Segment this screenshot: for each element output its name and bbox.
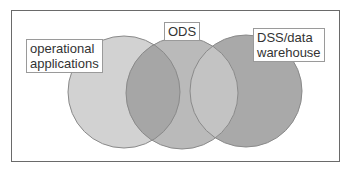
label-operational-applications: operational applications (26, 39, 103, 73)
label-line: applications (30, 56, 99, 71)
label-dss-data-warehouse: DSS/data warehouse (253, 28, 325, 62)
label-ods: ODS (164, 22, 200, 41)
label-line: DSS/data (257, 30, 321, 45)
label-line: operational (30, 41, 99, 56)
label-line: ODS (168, 24, 196, 39)
label-line: warehouse (257, 45, 321, 60)
